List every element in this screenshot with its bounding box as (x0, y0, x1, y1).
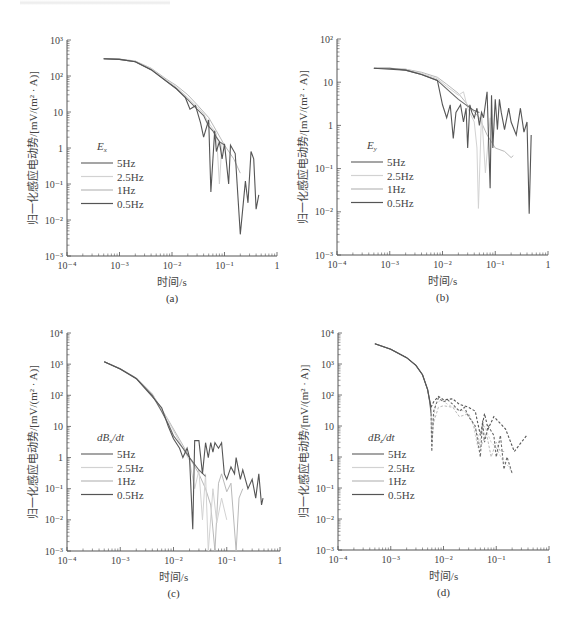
y-tick-label: 10 (53, 107, 63, 118)
panel-label: (b) (436, 291, 449, 304)
y-axis-title: 归一化感应电动势/[mV/(m² · A)] (26, 71, 40, 225)
x-tick-label: 10⁻³ (110, 260, 128, 271)
x-tick-label: 10⁻³ (382, 554, 400, 565)
chart-panel-d: 10⁻⁴10⁻³10⁻²10⁻¹110⁻³10⁻²10⁻¹11010²10³10… (297, 328, 552, 600)
chart-panel-a: 10⁻⁴10⁻³10⁻²10⁻¹110⁻³10⁻²10⁻¹11010²10³时间… (26, 35, 280, 306)
legend-label: 1Hz (387, 183, 405, 195)
series-line-5Hz (104, 59, 225, 145)
y-axis-title: 归一化感应电动势/[mV/(m² · A)] (296, 70, 310, 224)
x-tick-label: 10⁻² (433, 259, 451, 270)
legend-label: 2.5Hz (117, 462, 144, 474)
legend: dBx/dt5Hz2.5Hz1Hz0.5Hz (81, 431, 144, 501)
x-tick-label: 10⁻¹ (218, 555, 236, 566)
y-tick-label: 10² (320, 34, 333, 45)
x-tick-label: 10⁻³ (381, 259, 399, 270)
figure-canvas: 10⁻⁴10⁻³10⁻²10⁻¹110⁻³10⁻²10⁻¹11010²10³时间… (0, 0, 574, 621)
y-tick-label: 10⁻³ (315, 250, 333, 261)
x-tick-label: 10⁻² (164, 555, 182, 566)
x-axis-title: 时间/s (428, 275, 457, 287)
x-tick-label: 1 (547, 554, 552, 565)
legend-label: 0.5Hz (117, 489, 144, 501)
legend-label: 5Hz (117, 448, 135, 460)
x-tick-label: 10⁻² (434, 554, 452, 565)
panel-label: (c) (167, 587, 180, 600)
legend: Ey5Hz2.5Hz1Hz0.5Hz (351, 139, 414, 209)
legend-label: 1Hz (117, 475, 135, 487)
y-tick-label: 10⁻² (316, 514, 334, 525)
y-tick-label: 10² (50, 390, 63, 401)
y-tick-label: 10⁻¹ (45, 179, 63, 190)
x-axis-title: 时间/s (429, 570, 458, 582)
y-tick-label: 10² (321, 390, 334, 401)
legend-label: 0.5Hz (117, 198, 144, 210)
legend-label: 1Hz (117, 184, 135, 196)
legend-label: 0.5Hz (387, 197, 414, 209)
y-tick-label: 10⁻¹ (45, 483, 63, 494)
y-tick-label: 1 (329, 452, 334, 463)
y-tick-label: 1 (58, 143, 63, 154)
legend-label: 5Hz (387, 156, 405, 168)
legend-label: 5Hz (388, 448, 406, 460)
panel-label: (a) (166, 292, 179, 305)
legend-label: 2.5Hz (387, 170, 414, 182)
y-tick-label: 1 (328, 120, 333, 131)
x-tick-label: 10⁻² (163, 260, 181, 271)
legend: Ex5Hz2.5Hz1Hz0.5Hz (81, 140, 144, 210)
y-tick-label: 10³ (50, 35, 63, 46)
legend: dBz/dt5Hz2.5Hz1Hz0.5Hz (352, 431, 415, 501)
legend-title: Ey (366, 139, 378, 153)
y-axis-title: 归一化感应电动势/[mV/(m² · A)] (297, 365, 311, 519)
x-axis-title: 时间/s (157, 276, 186, 288)
legend-title: dBz/dt (368, 431, 396, 445)
x-tick-label: 1 (546, 259, 551, 270)
series-dashed-1Hz (431, 406, 506, 457)
x-tick-label: 10⁻⁴ (328, 259, 347, 270)
y-tick-label: 10³ (50, 359, 63, 370)
legend-label: 5Hz (117, 157, 135, 169)
y-tick-label: 10³ (321, 359, 334, 370)
series-line-2_5Hz (375, 344, 431, 411)
legend-label: 0.5Hz (388, 489, 415, 501)
x-tick-label: 10⁻⁴ (329, 554, 348, 565)
y-tick-label: 1 (58, 452, 63, 463)
x-tick-label: 10⁻¹ (486, 259, 504, 270)
x-tick-label: 10⁻⁴ (58, 260, 77, 271)
series-line-0_5Hz (104, 362, 263, 530)
legend-label: 2.5Hz (388, 462, 415, 474)
y-axis-title: 归一化感应电动势/[mV/(m² · A)] (26, 365, 40, 519)
y-tick-label: 10 (53, 421, 63, 432)
legend-title: Ex (96, 140, 108, 154)
x-tick-label: 10⁻⁴ (58, 555, 77, 566)
y-tick-label: 10⁻³ (316, 545, 334, 556)
x-tick-label: 10⁻¹ (215, 260, 233, 271)
y-tick-label: 10⁻² (45, 514, 63, 525)
legend-label: 1Hz (388, 475, 406, 487)
y-tick-label: 10⁴ (321, 328, 335, 339)
y-tick-label: 10⁴ (50, 328, 64, 339)
chart-panel-c: 10⁻⁴10⁻³10⁻²10⁻¹110⁻³10⁻²10⁻¹11010²10³10… (26, 328, 283, 601)
series-line-5Hz (375, 344, 431, 414)
x-axis-title: 时间/s (159, 571, 188, 583)
x-tick-label: 1 (278, 555, 283, 566)
series-dashed-5Hz (431, 398, 512, 473)
legend-title: dBx/dt (97, 431, 125, 445)
chart-panel-b: 10⁻⁴10⁻³10⁻²10⁻¹110⁻³10⁻²10⁻¹11010²时间/s归… (296, 34, 551, 305)
panels-group: 10⁻⁴10⁻³10⁻²10⁻¹110⁻³10⁻²10⁻¹11010²10³时间… (26, 34, 552, 601)
y-tick-label: 10⁻³ (45, 251, 63, 262)
y-tick-label: 10⁻² (45, 215, 63, 226)
x-tick-label: 10⁻³ (111, 555, 129, 566)
y-tick-label: 10⁻¹ (316, 483, 334, 494)
x-tick-label: 1 (275, 260, 280, 271)
panel-label: (d) (437, 586, 450, 599)
y-tick-label: 10 (324, 421, 334, 432)
x-tick-label: 10⁻¹ (487, 554, 505, 565)
series-line-1Hz (104, 59, 241, 173)
series-line-0_5Hz (375, 344, 431, 408)
y-tick-label: 10⁻³ (45, 546, 63, 557)
y-tick-label: 10² (50, 71, 63, 82)
y-tick-label: 10⁻² (315, 206, 333, 217)
y-tick-label: 10⁻¹ (315, 163, 333, 174)
legend-label: 2.5Hz (117, 171, 144, 183)
y-tick-label: 10 (323, 77, 333, 88)
